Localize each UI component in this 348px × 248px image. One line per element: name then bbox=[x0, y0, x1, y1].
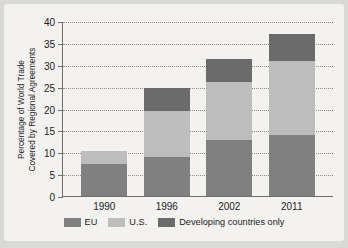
legend-label: EU bbox=[85, 217, 98, 227]
x-axis-tick-label: 2011 bbox=[281, 201, 303, 212]
legend-swatch bbox=[64, 218, 81, 227]
bar-slot: 1990 bbox=[73, 22, 136, 196]
bar-slot: 2002 bbox=[198, 22, 261, 196]
bar-segment[interactable] bbox=[144, 157, 190, 196]
y-axis-tick-label: 30 bbox=[44, 60, 55, 71]
stacked-bar[interactable] bbox=[81, 151, 127, 196]
x-axis-tick-label: 1996 bbox=[156, 201, 178, 212]
legend-swatch bbox=[158, 218, 175, 227]
bar-segment[interactable] bbox=[206, 140, 252, 196]
x-axis-tick-label: 1990 bbox=[93, 201, 115, 212]
legend-swatch bbox=[108, 218, 125, 227]
bar-segment[interactable] bbox=[269, 135, 315, 196]
bar-slot: 2011 bbox=[261, 22, 324, 196]
legend-label: Developing countries only bbox=[179, 217, 284, 227]
bar-slot: 1996 bbox=[136, 22, 199, 196]
bar-segment[interactable] bbox=[144, 111, 190, 157]
y-axis-tick-label: 40 bbox=[44, 17, 55, 28]
bar-segment[interactable] bbox=[269, 34, 315, 61]
y-axis-tick-label: 35 bbox=[44, 38, 55, 49]
y-axis-tick-label: 0 bbox=[49, 192, 55, 203]
y-axis-tick-label: 15 bbox=[44, 126, 55, 137]
bar-segment[interactable] bbox=[206, 82, 252, 140]
bar-segment[interactable] bbox=[144, 88, 190, 111]
y-axis-tick-label: 5 bbox=[49, 170, 55, 181]
bar-segment[interactable] bbox=[81, 164, 127, 196]
legend-item[interactable]: Developing countries only bbox=[158, 217, 284, 227]
plot-area: 0510152025303540 1990199620022011 bbox=[62, 22, 333, 197]
bar-segment[interactable] bbox=[206, 59, 252, 82]
stacked-bar[interactable] bbox=[144, 88, 190, 197]
legend-item[interactable]: U.S. bbox=[108, 217, 147, 227]
legend-item[interactable]: EU bbox=[64, 217, 98, 227]
stacked-bar[interactable] bbox=[269, 34, 315, 196]
chart-card: Percentage of World Trade Covered by Reg… bbox=[4, 4, 344, 241]
bar-segment[interactable] bbox=[81, 151, 127, 164]
stacked-bar[interactable] bbox=[206, 59, 252, 196]
y-axis-tick-label: 20 bbox=[44, 104, 55, 115]
y-axis-tick-label: 25 bbox=[44, 82, 55, 93]
bar-segment[interactable] bbox=[269, 61, 315, 135]
legend-label: U.S. bbox=[129, 217, 147, 227]
y-axis-tick-label: 10 bbox=[44, 148, 55, 159]
y-axis-title: Percentage of World Trade Covered by Reg… bbox=[16, 17, 37, 202]
y-axis-tick bbox=[58, 197, 63, 198]
x-axis-tick-label: 2002 bbox=[218, 201, 240, 212]
bar-group: 1990199620022011 bbox=[63, 22, 333, 196]
legend: EUU.S.Developing countries only bbox=[4, 217, 344, 227]
